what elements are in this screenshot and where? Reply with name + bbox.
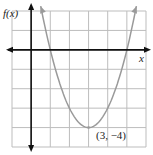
vertex-point	[87, 126, 90, 129]
x-axis-arrow-right	[144, 47, 151, 53]
parabola-graph: f(x) x (3, −4)	[0, 0, 153, 155]
vertex-label: (3, −4)	[96, 129, 126, 142]
x-axis-label: x	[138, 52, 144, 64]
curve-arrow-right	[131, 6, 137, 14]
axes	[6, 3, 151, 152]
x-axis-arrow-left	[6, 47, 13, 53]
y-axis-label: f(x)	[3, 7, 19, 20]
y-axis-arrow-up	[28, 3, 34, 10]
curve-arrow-left	[40, 6, 46, 14]
y-axis-arrow-down	[28, 145, 34, 152]
grid	[12, 11, 146, 147]
